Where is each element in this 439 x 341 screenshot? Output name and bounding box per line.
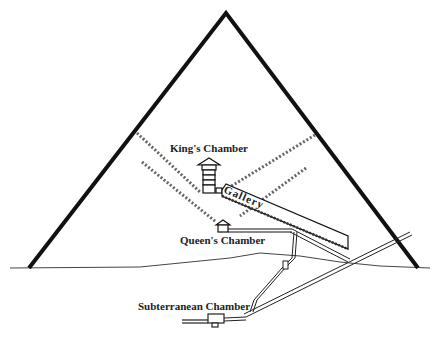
subterranean-chamber-label: Subterranean Chamber xyxy=(138,300,250,312)
passages xyxy=(244,229,412,317)
kings-chamber-icon xyxy=(198,158,222,193)
subterranean-chamber-icon xyxy=(182,314,246,327)
ground-line xyxy=(10,253,430,268)
kings-chamber-label: King's Chamber xyxy=(170,142,248,154)
pyramid-cross-section xyxy=(0,0,439,341)
queens-chamber-label: Queen's Chamber xyxy=(180,234,265,246)
